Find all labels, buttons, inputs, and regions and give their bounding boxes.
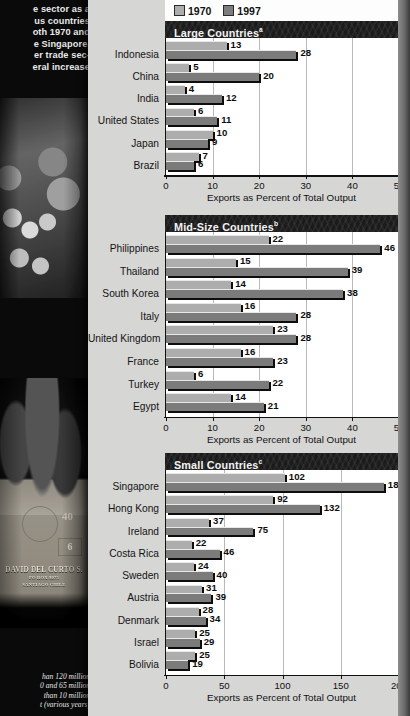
x-axis-baseline: [164, 175, 399, 177]
workers-with-plush-toys-photo: [0, 98, 88, 298]
chart-title-superscript: c: [258, 458, 262, 465]
category-label: Singapore: [88, 481, 165, 492]
tick-label-150: 150: [333, 680, 349, 691]
intro-body-text: e sector as aus countriesoth 1970 ande S…: [0, 4, 92, 74]
bar-1997: [166, 616, 206, 625]
gridline-40: [352, 38, 353, 175]
gridline-150: [341, 470, 342, 675]
bar-value-label: 9: [212, 136, 217, 147]
category-label: Philippines: [88, 243, 165, 254]
bar-value-label: 13: [231, 39, 242, 50]
intro-line-1: us countries: [0, 16, 92, 28]
bar-1970: [166, 540, 192, 549]
category-label: Hong Kong: [88, 503, 165, 514]
bar-1997: [166, 334, 296, 343]
bar-value-label: 39: [215, 591, 226, 602]
gridline-30: [306, 38, 307, 175]
bar-1970: [166, 607, 199, 616]
bar-value-label: 46: [224, 546, 235, 557]
category-label: Ireland: [88, 526, 165, 537]
bar-1997: [166, 402, 264, 411]
bar-1970: [166, 562, 194, 571]
bar-1997: [166, 72, 259, 81]
tick-label-0: 0: [163, 422, 168, 433]
tick-label-100: 100: [274, 680, 290, 691]
chart-title-superscript: a: [259, 26, 263, 33]
bar-value-label: 22: [196, 537, 207, 548]
bar-1970: [166, 651, 195, 660]
bar-value-label: 11: [221, 114, 231, 125]
bar-1970: [166, 63, 189, 72]
bar-1997: [166, 504, 320, 513]
gridline-20: [259, 232, 260, 417]
category-label: Israel: [88, 637, 165, 648]
bar-value-label: 14: [235, 391, 246, 402]
bar-value-label: 6: [198, 368, 203, 379]
category-label: Japan: [88, 138, 165, 149]
category-label: Italy: [88, 311, 165, 322]
bar-1997: [166, 139, 208, 148]
legend-label-1997: 1997: [237, 5, 260, 17]
bar-value-label: 92: [277, 493, 288, 504]
bar-1997: [166, 380, 269, 389]
tick-label-40: 40: [347, 422, 358, 433]
bar-value-label: 6: [198, 105, 203, 116]
x-axis-title: Exports as Percent of Total Output: [165, 192, 398, 203]
gridline-40: [352, 232, 353, 417]
bar-1997: [166, 593, 211, 602]
bar-1997: [166, 94, 222, 103]
category-label: Costa Rica: [88, 548, 165, 559]
tick-label-50: 50: [219, 680, 230, 691]
category-label: United Kingdom: [88, 333, 165, 344]
chart-title-text: Small Countries: [174, 459, 258, 471]
bar-1970: [166, 303, 241, 312]
right-edge-strip: [398, 0, 410, 716]
bar-1970: [166, 348, 241, 357]
bar-1997: [166, 571, 213, 580]
bar-value-label: 15: [240, 255, 251, 266]
footnote-line-3: t (various years).: [0, 700, 92, 710]
footnote-line-0: han 120 million.: [0, 672, 92, 682]
legend-swatch-1970: [174, 5, 185, 16]
chart-title-superscript: b: [274, 220, 278, 227]
tick-label-0: 0: [163, 180, 168, 191]
bar-value-label: 10: [217, 127, 228, 138]
crate-digit-box: 6: [58, 538, 82, 556]
category-label: Bolivia: [88, 659, 165, 670]
intro-line-2: oth 1970 and: [0, 27, 92, 39]
intro-line-5: eral increase: [0, 62, 92, 74]
bar-1970: [166, 280, 231, 289]
footnote-line-2: than 10 million.: [0, 691, 92, 701]
legend-item-1970: 1970: [174, 5, 211, 17]
chart-mid-size-countries: Mid-Size CountriesbPhilippinesThailandSo…: [88, 215, 398, 447]
crate-city: SANTIAGO CHILE: [0, 582, 88, 587]
bar-1997: [166, 244, 380, 253]
category-label: Thailand: [88, 266, 165, 277]
bar-value-label: 23: [277, 323, 288, 334]
bar-value-label: 40: [217, 569, 228, 580]
intro-line-4: er trade sec-: [0, 50, 92, 62]
bar-1970: [166, 235, 269, 244]
bar-1997: [166, 660, 188, 669]
bar-value-label: 7: [203, 150, 208, 161]
intro-line-0: e sector as a: [0, 4, 92, 16]
chart-title-text: Large Countries: [174, 27, 259, 39]
crate-company-name: DAVID DEL CURTO S.: [0, 566, 88, 574]
bar-value-label: 39: [352, 264, 363, 275]
chart-title-text: Mid-Size Countries: [174, 221, 274, 233]
category-label: India: [88, 93, 165, 104]
bar-1997: [166, 482, 384, 491]
bar-value-label: 4: [189, 83, 194, 94]
legend-item-1997: 1997: [223, 5, 260, 17]
plot-area: 0501001502001021879213237752246244031392…: [165, 470, 399, 675]
tick-label-30: 30: [300, 180, 311, 191]
bar-value-label: 28: [300, 332, 311, 343]
bar-value-label: 14: [235, 278, 246, 289]
bar-1997: [166, 527, 253, 536]
bar-value-label: 22: [273, 233, 284, 244]
category-label: China: [88, 71, 165, 82]
bar-1970: [166, 371, 194, 380]
fruit-crate-photo: 40 6 DAVID DEL CURTO S. PO BOX 9075 SANT…: [0, 378, 88, 628]
bar-1997: [166, 267, 348, 276]
bar-value-label: 29: [204, 636, 215, 647]
